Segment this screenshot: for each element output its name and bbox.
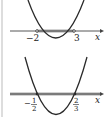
- diagram-frame: −2 3 x − 1 2 2 3 x: [0, 0, 106, 117]
- top-axis-arrow-icon: [100, 29, 104, 33]
- parabola-diagrams: −2 3 x − 1 2 2 3 x: [0, 0, 106, 117]
- top-root-right-label: 3: [74, 33, 80, 43]
- top-root-right-point: [73, 30, 76, 33]
- top-root-left-point: [36, 30, 39, 33]
- top-graph: −2 3 x: [10, 0, 104, 43]
- bottom-root-right-numerator: 2: [74, 97, 78, 105]
- bottom-root-left-numerator: 1: [32, 97, 36, 105]
- top-root-left-label: −2: [26, 33, 39, 43]
- bottom-graph: − 1 2 2 3 x: [10, 57, 104, 115]
- bottom-root-right-point: [74, 93, 77, 96]
- top-axis-label: x: [95, 32, 100, 42]
- bottom-axis-label: x: [95, 95, 100, 105]
- bottom-root-left-denominator: 2: [32, 105, 36, 113]
- bottom-root-right-denominator: 3: [74, 105, 78, 113]
- bottom-root-left-point: [36, 93, 39, 96]
- bottom-root-left-sign: −: [24, 99, 31, 108]
- bottom-axis-arrow-icon: [100, 92, 104, 96]
